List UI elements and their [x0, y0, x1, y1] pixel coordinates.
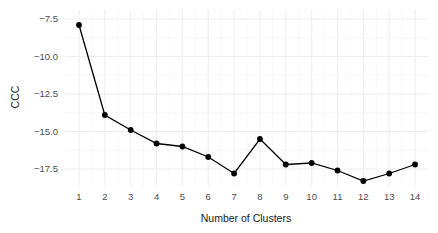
- x-tick-label: 4: [154, 191, 159, 202]
- x-tick-label: 8: [257, 191, 262, 202]
- data-point: [283, 162, 289, 168]
- data-point: [76, 22, 82, 28]
- y-tick-label: −10.0: [34, 51, 58, 62]
- x-axis-title: Number of Clusters: [201, 212, 291, 224]
- y-axis-title: CCC: [9, 85, 21, 108]
- y-tick-label: −7.5: [39, 13, 58, 24]
- x-tick-label: 14: [410, 191, 421, 202]
- x-tick-label: 11: [333, 191, 343, 202]
- data-point: [205, 154, 211, 160]
- data-point: [102, 112, 108, 118]
- x-tick-label: 2: [102, 191, 107, 202]
- x-tick-label: 10: [306, 191, 317, 202]
- data-point: [386, 171, 392, 177]
- data-point: [154, 141, 160, 147]
- x-tick-label: 1: [76, 191, 81, 202]
- data-point: [360, 178, 366, 184]
- data-point: [128, 127, 134, 133]
- data-point: [257, 136, 263, 142]
- y-tick-label: −12.5: [34, 88, 58, 99]
- x-tick-label: 9: [283, 191, 288, 202]
- data-point: [180, 144, 186, 150]
- x-tick-label: 3: [128, 191, 133, 202]
- data-point: [231, 171, 237, 177]
- line-chart: −7.5−10.0−12.5−15.0−17.5 123456789101112…: [0, 0, 438, 233]
- y-tick-label: −17.5: [34, 163, 58, 174]
- data-point: [309, 160, 315, 166]
- plot-background: [0, 0, 438, 233]
- x-tick-label: 7: [231, 191, 236, 202]
- data-point: [412, 162, 418, 168]
- y-tick-label: −15.0: [34, 126, 58, 137]
- x-tick-label: 6: [206, 191, 211, 202]
- x-tick-label: 12: [358, 191, 369, 202]
- x-tick-label: 5: [180, 191, 185, 202]
- data-point: [335, 168, 341, 174]
- x-tick-label: 13: [384, 191, 395, 202]
